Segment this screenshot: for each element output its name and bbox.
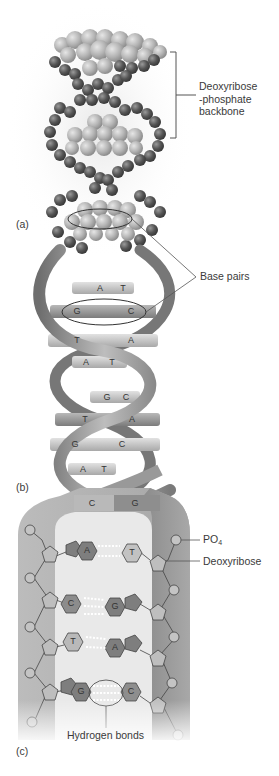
svg-text:C: C	[128, 306, 135, 316]
po4-label: PO4	[203, 533, 222, 547]
svg-text:C: C	[123, 392, 130, 402]
hydrogen-bonds-label: Hydrogen bonds	[67, 729, 144, 742]
deoxyribose-label: Deoxyribose	[203, 555, 261, 568]
svg-text:G: G	[73, 306, 80, 316]
ribbon-helix-model: A T G C T A A T G C T A G C A T	[39, 250, 170, 515]
panel-label-b: (b)	[16, 481, 29, 493]
po4-main: PO	[203, 533, 218, 545]
svg-text:A: A	[97, 283, 103, 293]
base-pairs-label: Base pairs	[200, 270, 250, 283]
backbone-label-line-3: backbone	[199, 105, 257, 118]
dna-structure-figure: A T G C T A A T G C T A G C A T	[0, 0, 279, 776]
space-filling-model	[5, 0, 195, 260]
chemical-schematic: C G	[10, 488, 200, 745]
backbone-label: Deoxyribose -phosphate backbone	[199, 80, 257, 118]
svg-text:C: C	[68, 598, 75, 608]
svg-text:G: G	[111, 601, 118, 611]
po4-subscript: 4	[218, 539, 222, 546]
svg-text:A: A	[128, 335, 134, 345]
svg-text:T: T	[109, 357, 115, 367]
backbone-label-line-2: -phosphate	[199, 93, 257, 106]
svg-text:G: G	[103, 392, 110, 402]
svg-text:A: A	[112, 642, 118, 652]
svg-text:C: C	[89, 498, 96, 508]
svg-text:G: G	[71, 439, 78, 449]
svg-text:A: A	[129, 414, 135, 424]
panel-label-a: (a)	[16, 218, 29, 230]
panel-label-c: (c)	[16, 745, 28, 757]
svg-text:C: C	[128, 686, 135, 696]
svg-text:T: T	[70, 636, 76, 646]
svg-text:G: G	[77, 686, 84, 696]
svg-text:T: T	[74, 335, 80, 345]
backbone-label-line-1: Deoxyribose	[199, 80, 257, 93]
svg-text:C: C	[119, 439, 126, 449]
svg-text:T: T	[120, 283, 126, 293]
svg-text:T: T	[101, 464, 107, 474]
svg-text:T: T	[129, 547, 135, 557]
svg-text:A: A	[84, 545, 90, 555]
svg-text:A: A	[80, 464, 86, 474]
svg-text:G: G	[131, 498, 138, 508]
svg-text:T: T	[82, 414, 88, 424]
svg-text:A: A	[83, 357, 89, 367]
